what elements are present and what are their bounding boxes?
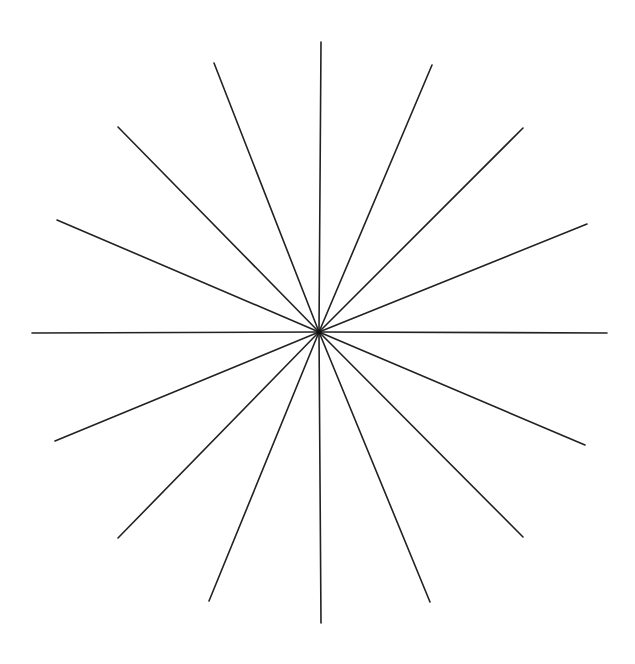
starburst-diagram bbox=[0, 0, 635, 664]
center-hub bbox=[317, 330, 322, 335]
ray-left bbox=[32, 332, 319, 333]
ray-right bbox=[319, 332, 607, 333]
